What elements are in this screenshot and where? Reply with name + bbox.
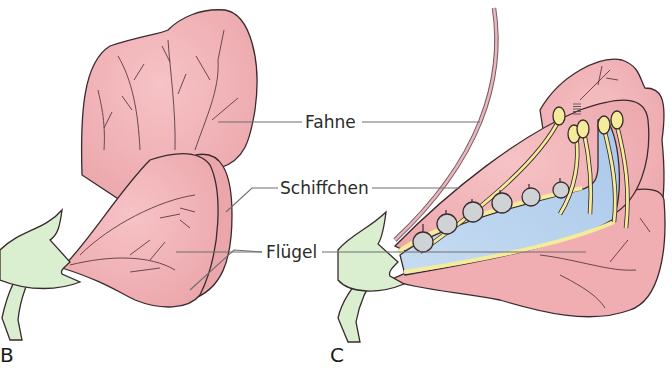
anther xyxy=(553,107,565,125)
anther xyxy=(611,111,623,129)
anther xyxy=(598,116,610,134)
panel-c-flower xyxy=(338,8,665,342)
anther xyxy=(577,120,589,138)
sepal-b xyxy=(0,210,80,289)
ovule xyxy=(522,188,540,206)
ovule xyxy=(437,214,457,234)
label-fluegel: Flügel xyxy=(266,242,317,262)
panel-label-c: C xyxy=(330,343,344,367)
ovule xyxy=(553,182,569,198)
panel-b-flower xyxy=(0,10,257,340)
flower-diagram: Fahne Schiffchen Flügel B C xyxy=(0,0,672,368)
label-fahne: Fahne xyxy=(305,112,356,132)
ovule xyxy=(492,193,512,213)
ovule xyxy=(413,232,433,252)
label-schiffchen: Schiffchen xyxy=(280,178,369,198)
ovule xyxy=(463,202,483,222)
panel-label-b: B xyxy=(0,343,14,367)
